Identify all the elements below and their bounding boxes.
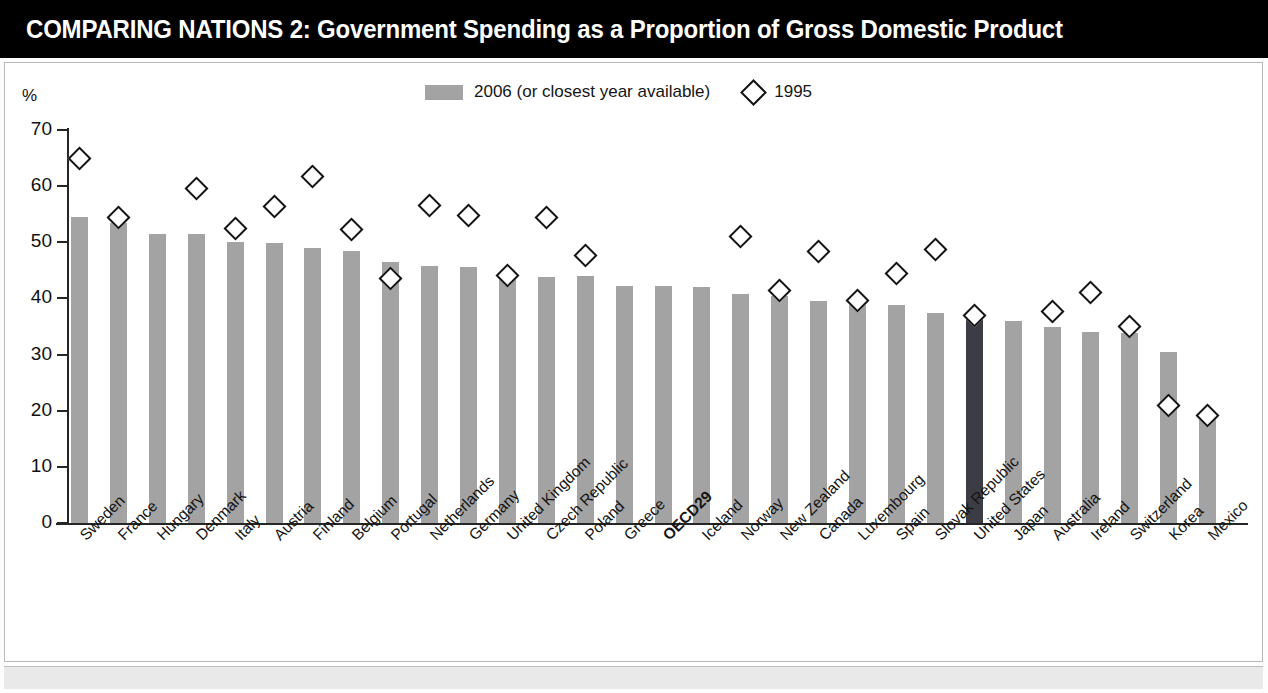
bar-slovak-republic[interactable] bbox=[927, 313, 944, 523]
bar-new-zealand[interactable] bbox=[771, 296, 788, 523]
y-axis-tick bbox=[57, 354, 68, 356]
y-axis-unit-label: % bbox=[22, 86, 37, 106]
bar-norway[interactable] bbox=[732, 294, 749, 523]
y-axis-tick bbox=[57, 185, 68, 187]
legend-bar-swatch-icon bbox=[425, 85, 463, 100]
legend-item-1995: 1995 bbox=[744, 82, 812, 102]
legend-label-2006: 2006 (or closest year available) bbox=[474, 82, 710, 102]
bar-greece[interactable] bbox=[616, 286, 633, 523]
legend-diamond-icon bbox=[740, 79, 767, 106]
y-axis-tick-label: 0 bbox=[10, 512, 52, 531]
y-axis-tick-label: 70 bbox=[10, 119, 52, 138]
y-axis-tick-label: 20 bbox=[10, 400, 52, 419]
y-axis-tick bbox=[57, 129, 68, 131]
y-axis-tick-label: 40 bbox=[10, 287, 52, 306]
bar-france[interactable] bbox=[110, 223, 127, 523]
title-bar: COMPARING NATIONS 2: Government Spending… bbox=[0, 0, 1268, 58]
bar-belgium[interactable] bbox=[343, 251, 360, 523]
page-title: COMPARING NATIONS 2: Government Spending… bbox=[26, 15, 1063, 44]
bar-finland[interactable] bbox=[304, 248, 321, 523]
bar-australia[interactable] bbox=[1044, 327, 1061, 523]
chart-legend: 2006 (or closest year available) 1995 bbox=[425, 82, 812, 102]
y-axis-tick-label: 10 bbox=[10, 456, 52, 475]
bar-hungary[interactable] bbox=[149, 234, 166, 523]
bar-luxembourg[interactable] bbox=[849, 305, 866, 523]
y-axis-tick bbox=[57, 522, 68, 524]
footer-band bbox=[4, 666, 1263, 689]
chart-page: COMPARING NATIONS 2: Government Spending… bbox=[0, 0, 1268, 693]
bar-mexico[interactable] bbox=[1199, 417, 1216, 523]
legend-label-1995: 1995 bbox=[774, 82, 812, 102]
y-axis-tick-label: 60 bbox=[10, 175, 52, 194]
bar-sweden[interactable] bbox=[71, 217, 88, 523]
y-axis-tick bbox=[57, 466, 68, 468]
bar-switzerland[interactable] bbox=[1121, 333, 1138, 523]
y-axis-tick bbox=[57, 410, 68, 412]
y-axis-tick bbox=[57, 297, 68, 299]
y-axis-tick-label: 30 bbox=[10, 344, 52, 363]
bar-denmark[interactable] bbox=[188, 234, 205, 523]
bar-austria[interactable] bbox=[266, 243, 283, 523]
bar-italy[interactable] bbox=[227, 242, 244, 523]
bar-united-kingdom[interactable] bbox=[499, 276, 516, 523]
legend-item-2006: 2006 (or closest year available) bbox=[425, 82, 710, 102]
bar-netherlands[interactable] bbox=[421, 266, 438, 523]
bar-oecd29[interactable] bbox=[655, 286, 672, 523]
y-axis-tick bbox=[57, 241, 68, 243]
bar-portugal[interactable] bbox=[382, 262, 399, 523]
y-axis-tick-label: 50 bbox=[10, 231, 52, 250]
